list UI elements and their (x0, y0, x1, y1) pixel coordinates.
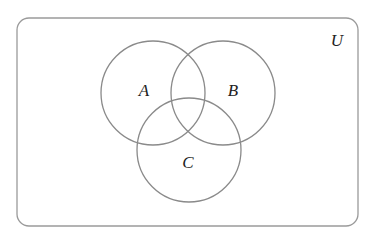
set-b-circle (171, 41, 275, 145)
set-a-circle (101, 41, 205, 145)
venn-diagram: U A B C (0, 0, 370, 235)
universe-rectangle (17, 18, 358, 226)
universe-label: U (331, 31, 345, 50)
set-c-circle (137, 98, 241, 202)
set-b-label: B (228, 81, 239, 100)
set-a-label: A (138, 81, 150, 100)
set-c-label: C (182, 153, 194, 172)
